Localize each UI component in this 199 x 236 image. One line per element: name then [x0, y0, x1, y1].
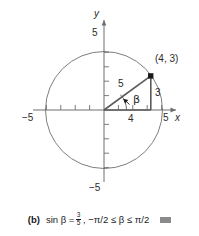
figure-caption: (b) sin β = 3 5 , −π/2 ≤ β ≤ π/2	[0, 203, 199, 236]
reference-triangle	[104, 76, 151, 110]
caption-equation-suffix: , −π/2 ≤ β ≤ π/2	[83, 214, 149, 225]
plot-svg	[0, 0, 199, 200]
data-point-marker	[148, 73, 153, 78]
y-axis-bottom-tick-label: −5	[89, 183, 100, 193]
angle-beta-label: β	[133, 94, 140, 105]
caption-equation: sin β = 3 5 , −π/2 ≤ β ≤ π/2	[46, 212, 149, 227]
angle-pointer-arrow	[123, 99, 129, 105]
caption-part-label: (b)	[28, 214, 40, 225]
x-axis-label: x	[175, 113, 180, 123]
end-of-section-marker	[160, 217, 171, 223]
caption-fraction: 3 5	[76, 212, 82, 227]
opposite-length-label: 3	[155, 88, 161, 98]
triangle-hypotenuse	[104, 76, 151, 110]
x-axis-right-tick-label: 5	[163, 113, 169, 123]
hypotenuse-length-label: 5	[118, 79, 124, 89]
fraction-denominator: 5	[76, 219, 82, 227]
y-axis-top-tick-label: 5	[92, 28, 98, 38]
x-axis-left-tick-label: −5	[22, 113, 33, 123]
fraction-numerator: 3	[76, 212, 82, 219]
adjacent-length-label: 4	[128, 114, 134, 124]
unit-circle-plot: −5 5 x 5 −5 y (4, 3) 5 3 4 β	[0, 0, 199, 200]
y-axis-label: y	[94, 9, 99, 19]
y-axis-arrowhead	[102, 20, 107, 26]
caption-equation-prefix: sin β =	[46, 214, 74, 225]
figure-container: −5 5 x 5 −5 y (4, 3) 5 3 4 β (b) sin β =…	[0, 0, 199, 236]
point-coordinate-label: (4, 3)	[155, 54, 178, 64]
